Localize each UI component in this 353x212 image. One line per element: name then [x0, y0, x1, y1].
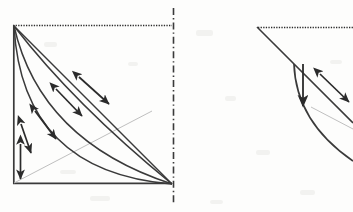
- figure-root: [0, 0, 353, 212]
- cropped-faint-guide: [311, 107, 353, 129]
- left-panel: [13, 8, 174, 205]
- right-panel: [257, 27, 353, 161]
- arrow-pair-2: [56, 89, 82, 116]
- arrow-pair-diagonal: [320, 74, 349, 102]
- arrow-pair-3: [35, 111, 56, 139]
- faint-guide-diagonal: [14, 111, 152, 183]
- arrow-pair-4: [21, 124, 31, 153]
- figure-canvas: [0, 0, 353, 212]
- reference-diagonal: [14, 26, 172, 184]
- arrow-pair-1: [79, 77, 109, 104]
